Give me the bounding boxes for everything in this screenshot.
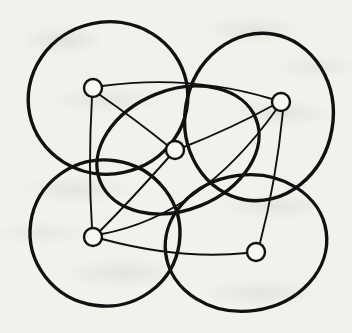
figure-canvas	[0, 0, 352, 333]
node-n-top-left	[84, 79, 102, 97]
node-n-bottom-right	[247, 243, 265, 261]
regions-layer	[14, 7, 347, 322]
node-n-bottom-left	[84, 228, 102, 246]
region-r-bottom-right	[156, 164, 335, 321]
region-r-top-right	[172, 21, 347, 212]
edge-n-top-left-to-n-center	[100, 95, 167, 145]
edge-n-bottom-left-to-n-bottom-right	[102, 239, 247, 255]
node-n-top-right	[272, 93, 290, 111]
node-n-center	[166, 141, 184, 159]
circle-intersection-diagram	[0, 0, 352, 333]
